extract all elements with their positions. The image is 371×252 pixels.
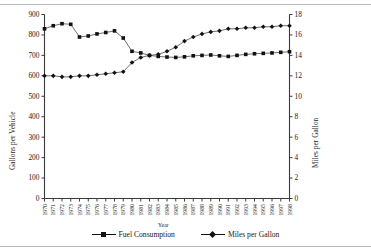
- legend-marker-diamond-icon: [201, 231, 225, 239]
- x-axis-tick-label: 1988: [199, 204, 205, 216]
- data-point-marker: [113, 29, 117, 33]
- data-point-marker: [279, 51, 283, 55]
- data-point-marker: [86, 34, 90, 38]
- data-point-marker: [243, 25, 248, 30]
- data-point-marker: [288, 50, 292, 54]
- chart-figure: 0100200300400500600700800900024681012141…: [0, 0, 371, 252]
- y-axis-right-tick-label: 4: [295, 153, 299, 162]
- x-axis-tick-label: 1987: [190, 204, 196, 216]
- data-point-marker: [270, 51, 274, 55]
- x-axis-tick-label: 1977: [103, 204, 109, 216]
- data-point-marker: [43, 27, 47, 31]
- x-axis-tick-label: 1997: [278, 204, 284, 216]
- y-axis-left-tick-label: 200: [28, 153, 39, 162]
- data-point-marker: [121, 36, 125, 40]
- y-axis-left-tick-label: 100: [28, 173, 39, 182]
- x-axis-tick-label: 1970: [42, 204, 48, 216]
- y-axis-left-tick-label: 700: [28, 51, 39, 60]
- data-point-marker: [278, 23, 283, 28]
- data-point-marker: [261, 24, 266, 29]
- data-point-marker: [60, 75, 65, 80]
- x-axis-tick-label: 1991: [225, 204, 231, 216]
- y-axis-right-tick-label: 0: [295, 194, 299, 203]
- x-axis-tick-label: 1985: [173, 204, 179, 216]
- x-axis-tick-label: 1990: [217, 204, 223, 216]
- x-axis-tick-label: 1980: [129, 204, 135, 216]
- data-point-marker: [218, 54, 222, 58]
- data-point-marker: [77, 74, 82, 79]
- x-axis-title: Year: [158, 222, 169, 228]
- y-axis-right-tick-label: 16: [295, 30, 303, 39]
- y-axis-right-title: Miles per Gallon: [312, 118, 320, 168]
- data-point-marker: [69, 23, 73, 27]
- data-point-marker: [235, 27, 240, 32]
- data-point-marker: [95, 32, 99, 36]
- x-axis-tick-label: 1986: [182, 204, 188, 216]
- x-axis-tick-label: 1973: [68, 204, 74, 216]
- data-point-marker: [287, 23, 292, 28]
- data-point-marker: [104, 31, 108, 35]
- y-axis-right-tick-label: 12: [295, 71, 303, 80]
- data-point-marker: [253, 52, 257, 56]
- data-point-marker: [139, 51, 143, 55]
- x-axis-tick-label: 1972: [59, 204, 65, 216]
- data-point-marker: [165, 55, 169, 59]
- x-axis-tick-label: 1971: [50, 204, 56, 216]
- data-point-marker: [244, 53, 248, 57]
- data-point-marker: [86, 74, 91, 79]
- y-axis-left-tick-label: 900: [28, 10, 39, 19]
- y-axis-left-tick-label: 0: [36, 194, 40, 203]
- x-axis-tick-label: 1993: [243, 204, 249, 216]
- x-axis-tick-label: 1998: [287, 204, 293, 216]
- chart-legend: Fuel Consumption Miles per Gallon: [0, 230, 371, 239]
- x-axis-tick-label: 1983: [155, 204, 161, 216]
- x-axis-tick-label: 1989: [208, 204, 214, 216]
- data-point-marker: [68, 75, 73, 80]
- data-point-marker: [235, 54, 239, 58]
- y-axis-right-tick-label: 2: [295, 173, 299, 182]
- y-axis-left-tick-label: 400: [28, 112, 39, 121]
- x-axis-tick-label: 1981: [138, 204, 144, 216]
- data-point-marker: [261, 52, 265, 56]
- legend-label: Miles per Gallon: [228, 230, 279, 239]
- y-axis-left-tick-label: 500: [28, 92, 39, 101]
- x-axis-tick-label: 1975: [85, 204, 91, 216]
- y-axis-right-tick-label: 14: [295, 51, 303, 60]
- y-axis-left-tick-label: 600: [28, 71, 39, 80]
- x-axis-tick-label: 1978: [112, 204, 118, 216]
- y-axis-right-tick-label: 6: [295, 133, 299, 142]
- y-axis-left-tick-label: 800: [28, 30, 39, 39]
- data-point-marker: [51, 24, 55, 28]
- legend-label: Fuel Consumption: [119, 230, 175, 239]
- data-point-marker: [112, 70, 117, 75]
- data-point-marker: [191, 54, 195, 58]
- data-point-marker: [191, 35, 196, 40]
- legend-item-miles-per-gallon: Miles per Gallon: [201, 230, 279, 239]
- y-axis-right-tick-label: 18: [295, 10, 303, 19]
- data-point-marker: [165, 49, 170, 54]
- data-point-marker: [42, 74, 47, 79]
- y-axis-right-tick-label: 10: [295, 92, 303, 101]
- y-axis-right-tick-label: 8: [295, 112, 299, 121]
- y-axis-left-title: Gallons per Vehicle: [9, 112, 17, 170]
- data-point-marker: [95, 73, 100, 78]
- x-axis-tick-label: 1994: [252, 204, 258, 216]
- x-axis-tick-label: 1979: [120, 204, 126, 216]
- x-axis-tick-label: 1992: [234, 204, 240, 216]
- data-point-marker: [78, 35, 82, 39]
- data-point-marker: [200, 32, 205, 37]
- data-point-marker: [252, 25, 257, 30]
- data-point-marker: [51, 74, 56, 79]
- x-axis-tick-label: 1974: [77, 204, 83, 216]
- data-point-marker: [174, 56, 178, 60]
- data-point-marker: [183, 55, 187, 59]
- x-axis-tick-label: 1995: [260, 204, 266, 216]
- x-axis-tick-label: 1984: [164, 204, 170, 216]
- x-axis-tick-label: 1976: [94, 204, 100, 216]
- x-axis-tick-label: 1996: [269, 204, 275, 216]
- data-point-marker: [200, 54, 204, 58]
- x-axis-tick-label: 1982: [147, 204, 153, 216]
- y-axis-left-tick-label: 300: [28, 133, 39, 142]
- data-point-marker: [208, 30, 213, 35]
- data-point-marker: [138, 55, 143, 60]
